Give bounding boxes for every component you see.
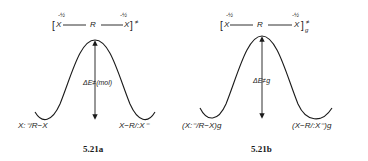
diagram-a-right-atom: X — [124, 21, 129, 29]
diagram-b-left-charge: -½ — [226, 12, 233, 18]
diagram-a-caption: 5.21a — [83, 144, 103, 154]
diagram-b-center-atom: R — [257, 21, 263, 29]
diagram-a-ts-superscript: ≠ — [135, 19, 138, 25]
diagram-b-barrier-label: ΔE≠g — [253, 77, 270, 84]
diagram-b-right-state: (X−R/:X⁻)g — [292, 122, 331, 130]
diagram-b-caption: 5.21b — [251, 144, 272, 154]
diagram-b-open-bracket: [ — [220, 21, 223, 31]
diagram-a-left-charge: -½ — [58, 12, 65, 18]
diagram-a-open-bracket: [ — [52, 21, 55, 31]
diagram-b-ts-subscript: g — [305, 27, 308, 33]
diagram-a-close-bracket: ] — [130, 21, 133, 31]
diagram-a-right-state: X−R/:X⁻ — [119, 122, 149, 130]
diagram-a-right-charge: -½ — [120, 12, 127, 18]
diagram-b-left-atom: X — [224, 21, 229, 29]
diagram-b-right-atom: X — [294, 21, 299, 29]
diagram-b-left-state: (X:⁻/R−X)g — [182, 122, 221, 130]
diagram-a-left-state: X:⁻/R−X — [18, 122, 48, 130]
diagram-b-close-bracket: ] — [301, 21, 304, 31]
diagram-b-ts-superscript: ≠ — [306, 19, 309, 25]
diagram-a-barrier-label: ΔE≠(mol) — [83, 79, 112, 86]
diagram-a-left-atom: X — [56, 21, 61, 29]
diagram-a-center-atom: R — [90, 21, 96, 29]
diagram-b-right-charge: -½ — [292, 12, 299, 18]
